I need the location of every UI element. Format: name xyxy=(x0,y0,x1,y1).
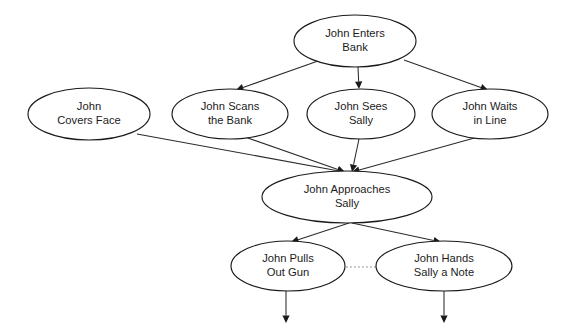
node-label: John Approaches xyxy=(304,183,391,195)
edge-enters-to-waits xyxy=(404,60,488,91)
node-label: Sally a Note xyxy=(414,266,474,278)
node-label: John Scans xyxy=(201,100,260,112)
edge-enters-to-scans xyxy=(236,61,318,91)
edge-line xyxy=(245,137,338,170)
edge-gun-outflow xyxy=(282,291,289,323)
node-label: John xyxy=(77,100,101,112)
node-scans-bank[interactable]: John Scansthe Bank xyxy=(172,89,288,139)
arrowhead-icon xyxy=(440,316,447,324)
node-covers-face[interactable]: JohnCovers Face xyxy=(28,88,150,140)
edge-approaches-to-gun xyxy=(291,223,349,243)
node-sees-sally[interactable]: John SeesSally xyxy=(307,89,415,139)
edge-enters-to-sees xyxy=(355,67,362,89)
node-enters-bank[interactable]: John EntersBank xyxy=(294,15,416,67)
edge-line xyxy=(352,223,434,240)
edge-line xyxy=(243,61,318,87)
node-label: John Hands xyxy=(414,252,474,264)
node-label: Sally xyxy=(349,114,374,126)
flowchart-diagram: John EntersBankJohnCovers FaceJohn Scans… xyxy=(0,0,574,335)
node-approaches-sally[interactable]: John ApproachesSally xyxy=(262,171,432,223)
arrowhead-icon xyxy=(355,81,362,89)
node-label: Sally xyxy=(335,197,360,209)
edge-scans-to-approaches xyxy=(245,137,345,173)
node-label: John Sees xyxy=(335,100,388,112)
edge-line xyxy=(298,223,349,240)
node-label: John Enters xyxy=(325,27,385,39)
node-label: Covers Face xyxy=(57,114,120,126)
edge-line xyxy=(359,137,478,170)
edge-line xyxy=(404,60,481,87)
node-label: in Line xyxy=(474,114,507,126)
flowchart-canvas: John EntersBankJohnCovers FaceJohn Scans… xyxy=(0,0,574,335)
edge-approaches-to-note xyxy=(352,223,441,244)
node-layer: John EntersBankJohnCovers FaceJohn Scans… xyxy=(28,15,548,291)
arrowhead-icon xyxy=(282,316,289,324)
node-pulls-out-gun[interactable]: John PullsOut Gun xyxy=(231,241,345,291)
edge-line xyxy=(354,139,359,165)
edge-line xyxy=(358,67,359,82)
edge-note-outflow xyxy=(440,291,447,323)
node-label: the Bank xyxy=(208,114,253,126)
node-label: John Waits xyxy=(463,100,518,112)
node-label: John Pulls xyxy=(262,252,314,264)
edge-sees-to-approaches xyxy=(350,139,359,172)
edge-waits-to-approaches xyxy=(352,137,478,173)
edge-line xyxy=(137,134,338,171)
node-waits-in-line[interactable]: John Waitsin Line xyxy=(432,89,548,139)
node-label: Bank xyxy=(342,41,368,53)
node-label: Out Gun xyxy=(267,266,309,278)
node-hands-note[interactable]: John HandsSally a Note xyxy=(376,241,512,291)
edge-covers-to-approaches xyxy=(137,134,345,174)
